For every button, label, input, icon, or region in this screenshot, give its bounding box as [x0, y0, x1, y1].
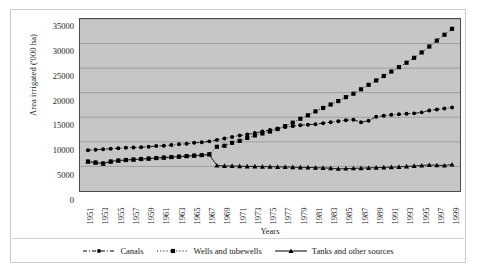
data-point-marker — [442, 106, 446, 110]
x-axis-tick-label: 1979 — [299, 207, 308, 224]
data-point-marker — [359, 120, 363, 124]
data-point-marker — [260, 131, 264, 135]
data-point-marker — [389, 70, 393, 74]
x-axis-tick-label: 1969 — [223, 207, 232, 224]
data-point-marker — [139, 145, 143, 149]
data-point-marker — [321, 106, 325, 110]
data-point-marker — [230, 135, 234, 139]
y-axis-tick-label: 5000 — [57, 171, 74, 180]
data-point-marker — [223, 136, 227, 140]
y-axis-tick-label: 20000 — [53, 96, 74, 105]
data-point-marker — [336, 99, 340, 103]
x-axis-tick-label: 1983 — [330, 207, 339, 224]
data-point-marker — [420, 50, 424, 54]
data-point-marker — [86, 148, 90, 152]
x-axis-tick-label: 1973 — [253, 207, 262, 224]
data-point-marker — [169, 143, 173, 147]
x-axis-tick-label: 1977 — [284, 207, 293, 224]
data-point-marker — [154, 144, 158, 148]
legend-item-canals[interactable]: Canals — [82, 246, 143, 256]
data-point-marker — [435, 39, 439, 43]
data-point-marker — [404, 61, 408, 65]
y-axis-tick-labels: 05000100001500020000250003000035000 — [29, 18, 74, 192]
data-point-marker — [382, 74, 386, 78]
data-point-marker — [275, 127, 279, 131]
legend-label: Tanks and other sources — [312, 246, 394, 256]
data-point-marker — [374, 78, 378, 82]
x-axis-tick-label: 1955 — [116, 207, 125, 224]
x-axis-tick-label: 1967 — [208, 207, 217, 224]
data-point-marker — [344, 95, 348, 99]
data-point-marker — [450, 105, 454, 109]
x-axis-tick-label: 1975 — [269, 207, 278, 224]
data-point-marker — [336, 119, 340, 123]
x-axis-tick-label: 1965 — [192, 207, 201, 224]
x-axis-tick-label: 1953 — [101, 207, 110, 224]
series-line — [88, 29, 452, 164]
y-axis-tick-label: 0 — [70, 196, 74, 205]
data-point-marker — [397, 112, 401, 116]
x-axis-tick-label: 1985 — [345, 207, 354, 224]
series-tanks-and-other-sources — [85, 152, 454, 171]
x-axis-tick-label: 1997 — [436, 207, 445, 224]
data-point-marker — [306, 113, 310, 117]
data-point-marker — [147, 145, 151, 149]
x-axis-tick-label: 1959 — [147, 207, 156, 224]
data-point-marker — [351, 118, 355, 122]
data-point-marker — [435, 107, 439, 111]
data-point-marker — [170, 249, 174, 253]
data-point-marker — [374, 115, 378, 119]
data-point-marker — [192, 141, 196, 145]
legend-item-tanks-and-other-sources[interactable]: Tanks and other sources — [274, 246, 394, 256]
data-point-marker — [116, 146, 120, 150]
legend-label: Wells and tubewells — [194, 246, 262, 256]
x-axis-tick-label: 1981 — [314, 207, 323, 224]
x-axis-tick-label: 1961 — [162, 207, 171, 224]
data-point-marker — [389, 113, 393, 117]
legend-item-wells-and-tubewells[interactable]: Wells and tubewells — [156, 246, 262, 256]
data-point-marker — [412, 111, 416, 115]
data-point-marker — [200, 140, 204, 144]
data-point-marker — [162, 144, 166, 148]
data-point-marker — [351, 92, 355, 96]
x-axis-tick-label: 1999 — [452, 207, 461, 224]
plot-area — [79, 18, 461, 192]
data-point-marker — [109, 147, 113, 151]
data-point-marker — [442, 33, 446, 37]
data-point-marker — [329, 102, 333, 106]
y-axis-tick-label: 15000 — [53, 121, 74, 130]
data-point-marker — [185, 142, 189, 146]
data-point-marker — [359, 87, 363, 91]
data-point-marker — [450, 27, 454, 31]
data-point-marker — [238, 133, 242, 137]
data-point-marker — [222, 144, 226, 148]
data-point-marker — [306, 123, 310, 127]
data-point-marker — [283, 124, 287, 128]
chart-figure: Area irrigated ('000 ha) 050001000015000… — [10, 9, 466, 263]
data-point-marker — [230, 141, 234, 145]
data-point-marker — [253, 133, 257, 137]
x-axis-tick-label: 1957 — [131, 207, 140, 224]
series-canals — [86, 105, 454, 152]
data-point-marker — [321, 121, 325, 125]
data-point-marker — [124, 146, 128, 150]
data-point-marker — [427, 44, 431, 48]
data-point-marker — [238, 139, 242, 143]
y-axis-tick-label: 25000 — [53, 71, 74, 80]
chart-legend: CanalsWells and tubewellsTanks and other… — [12, 238, 464, 263]
x-axis-tick-label: 1963 — [177, 207, 186, 224]
data-point-marker — [314, 122, 318, 126]
data-point-marker — [291, 121, 295, 125]
data-point-marker — [215, 145, 219, 149]
x-axis-tick-label: 1971 — [238, 207, 247, 224]
x-axis-tick-label: 1995 — [421, 207, 430, 224]
data-point-marker — [382, 114, 386, 118]
x-axis-tick-label: 1987 — [360, 207, 369, 224]
data-point-marker — [313, 109, 317, 113]
y-axis-tick-label: 35000 — [53, 22, 74, 31]
data-point-marker — [177, 142, 181, 146]
x-axis-tick-label: 1951 — [86, 207, 95, 224]
legend-swatch-circle — [82, 246, 116, 256]
data-point-marker — [420, 110, 424, 114]
data-point-marker — [298, 123, 302, 127]
